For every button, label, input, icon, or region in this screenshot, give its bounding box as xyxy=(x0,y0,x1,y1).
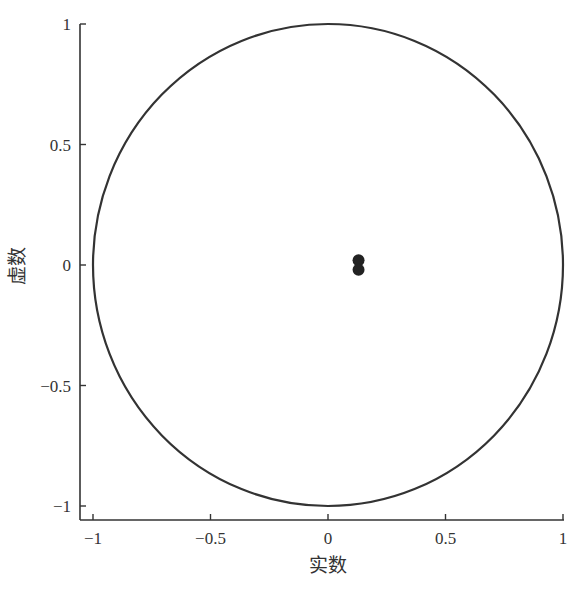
x-tick-label: −0.5 xyxy=(195,529,226,548)
y-tick-label: −0.5 xyxy=(40,377,71,396)
y-tick-label: −1 xyxy=(53,497,71,516)
x-tick-label: −1 xyxy=(84,529,102,548)
pole-zero-plot: −1−0.500.51−1−0.500.51 实数 虚数 xyxy=(0,0,577,596)
x-tick-label: 1 xyxy=(559,529,568,548)
y-tick-label: 1 xyxy=(63,15,72,34)
y-tick-label: 0 xyxy=(63,256,72,275)
pole-marker xyxy=(353,264,365,276)
x-tick-label: 0 xyxy=(324,529,333,548)
plot-area xyxy=(93,24,563,506)
y-axis-label: 虚数 xyxy=(6,247,28,285)
x-tick-label: 0.5 xyxy=(435,529,456,548)
unit-circle xyxy=(93,24,563,506)
axes: −1−0.500.51−1−0.500.51 xyxy=(40,15,567,548)
x-axis-label: 实数 xyxy=(309,554,347,576)
y-tick-label: 0.5 xyxy=(50,136,71,155)
